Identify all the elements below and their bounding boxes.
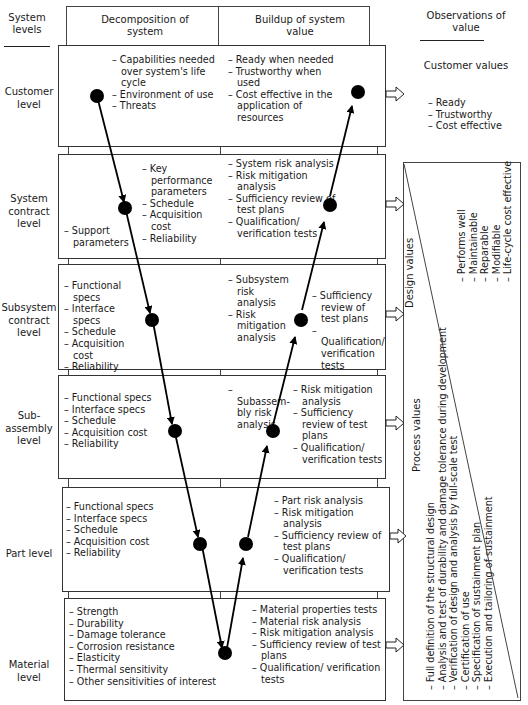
list-item: Functional specs — [64, 392, 164, 404]
list-item: Strength — [69, 606, 219, 618]
process-values-title-rot: Process values — [411, 392, 423, 472]
list-item: Qualification/ verification tests — [252, 662, 382, 685]
list-item: Other sensitivities of interest — [69, 676, 219, 688]
list-item: Acquisition cost — [142, 209, 214, 232]
divider — [4, 46, 50, 47]
list-item: Functional specs — [66, 501, 166, 513]
list-item: Acquisition cost — [66, 536, 166, 548]
list-item: Material risk analysis — [252, 616, 382, 628]
list-item: Risk mitigation analysis — [228, 309, 294, 344]
design-values-title: Design values — [404, 268, 416, 308]
list-item: Acquisition cost — [64, 427, 164, 439]
list-item: Execution and tailoring of sustainment — [483, 571, 495, 690]
list-item: Ready — [428, 97, 518, 109]
header-buildup: Buildup of system value — [250, 14, 350, 38]
list-item: Interface specs — [66, 513, 166, 525]
list-item: Trustworthy when used — [228, 66, 338, 89]
buildup-list-sub-assembly: Subassem-bly risk analysis — [228, 384, 282, 430]
process-values-title: Process values — [411, 392, 423, 472]
list-item: Acquisition cost — [64, 338, 144, 361]
list-item: Thermal sensitivity — [69, 664, 219, 676]
decomposition-list-system-contract: Key performance parameters Schedule Acqu… — [142, 163, 214, 244]
list-item: Schedule — [64, 326, 144, 338]
list-item: Sufficiency review of test plans — [312, 290, 382, 325]
list-item: Threats — [112, 100, 216, 112]
list-item: Qualification/ verification tests — [312, 325, 382, 371]
list-item: Life-cycle cost effective — [502, 167, 514, 282]
list-item: Risk mitigation analysis — [293, 384, 383, 407]
list-item: Elasticity — [69, 652, 219, 664]
buildup-list-subsystem-contract: Subsystem risk analysis Risk mitigation … — [228, 274, 294, 344]
list-item: Cost effective — [428, 120, 518, 132]
list-item: Subsystem risk analysis — [228, 274, 294, 309]
list-item: Damage tolerance — [69, 629, 219, 641]
level-label-part: Part level — [0, 548, 58, 561]
design-values-list: Performs well Maintainable Reparable Mod… — [456, 167, 514, 282]
list-item: Interface specs — [64, 404, 164, 416]
list-item: Qualification/ verification tests — [274, 553, 386, 576]
list-item: Risk mitigation analysis — [228, 170, 338, 193]
list-item: Specification of sustainment plan — [471, 280, 483, 690]
buildup-list-material: Material properties tests Material risk … — [252, 604, 382, 685]
buildup-right-list-sub-assembly: Risk mitigation analysis Sufficiency rev… — [293, 384, 383, 465]
list-item: Sufficiency review of test plans — [293, 407, 383, 442]
list-item: Part risk analysis — [274, 495, 386, 507]
list-item: Environment of use — [112, 89, 216, 101]
list-item: Schedule — [64, 415, 164, 427]
list-item: Reliability — [64, 361, 144, 373]
header-system-levels: System levels — [4, 12, 50, 36]
list-item: Key performance parameters — [142, 163, 214, 198]
level-label-customer: Customer level — [0, 86, 58, 111]
list-item: Cost effective in the application of res… — [228, 89, 338, 124]
buildup-list-customer: Ready when needed Trustworthy when used … — [228, 54, 338, 124]
list-item: Sufficiency review of test plans — [252, 639, 382, 662]
list-item: Modifiable — [491, 167, 503, 282]
list-item: System risk analysis — [228, 158, 338, 170]
customer-values-title: Customer values — [416, 60, 516, 72]
list-item: Performs well — [456, 167, 468, 282]
list-item: Full definition of the structural design — [425, 280, 437, 690]
list-item: Risk mitigation analysis — [252, 627, 382, 639]
buildup-right-list-subsystem-contract: Sufficiency review of test plans Qualifi… — [312, 290, 382, 371]
arrow-right-icon — [386, 416, 404, 430]
list-item: Trustworthy — [428, 109, 518, 121]
list-item: Support parameters — [64, 225, 128, 248]
arrow-right-icon — [386, 638, 404, 652]
list-item: Verification of design and analysis by f… — [448, 280, 460, 690]
list-item: Qualification/ verification tests — [228, 216, 338, 239]
decomposition-list-material: Strength Durability Damage tolerance Cor… — [69, 606, 219, 687]
list-item: Schedule — [66, 524, 166, 536]
header-observations: Observations of value — [416, 10, 516, 34]
arrow-right-icon — [386, 307, 404, 321]
list-item: Corrosion resistance — [69, 641, 219, 653]
list-item: Functional specs — [64, 280, 144, 303]
list-item: Interface specs — [64, 303, 144, 326]
level-label-material: Material level — [0, 659, 58, 684]
process-values-list: Full definition of the structural design… — [425, 280, 495, 690]
customer-values-list: Ready Trustworthy Cost effective — [428, 97, 518, 132]
list-item: Reliability — [66, 547, 166, 559]
list-item: Durability — [69, 618, 219, 630]
design-values-rot: Performs well Maintainable Reparable Mod… — [456, 167, 514, 282]
list-item: Ready when needed — [228, 54, 338, 66]
divider — [420, 40, 484, 41]
list-item: Risk mitigation analysis — [274, 507, 386, 530]
design-values-group: Design values — [404, 262, 416, 308]
list-item: Reliability — [64, 438, 164, 450]
decomposition-list-subsystem-contract: Functional specs Interface specs Schedul… — [64, 280, 144, 373]
list-item: Certification of use — [460, 280, 472, 690]
header-decomposition: Decomposition of system — [90, 14, 200, 38]
buildup-right-list-part: Part risk analysis Risk mitigation analy… — [274, 495, 386, 576]
list-item: Schedule — [142, 198, 214, 210]
list-item: Subassem-bly risk analysis — [228, 384, 282, 430]
list-item: Capabilities needed over system's life c… — [112, 54, 216, 89]
list-item: Maintainable — [468, 167, 480, 282]
buildup-list-system-contract: System risk analysis Risk mitigation ana… — [228, 158, 338, 239]
list-item: Reparable — [479, 167, 491, 282]
level-label-sub-assembly: Sub-assembly level — [0, 410, 58, 448]
level-label-system-contract: System contract level — [0, 193, 58, 231]
list-item: Sufficiency review of test plans — [274, 530, 386, 553]
list-item: Reliability — [142, 233, 214, 245]
list-item: Analysis and test of durability and dama… — [437, 280, 449, 690]
decomposition-list-part: Functional specs Interface specs Schedul… — [66, 501, 166, 559]
